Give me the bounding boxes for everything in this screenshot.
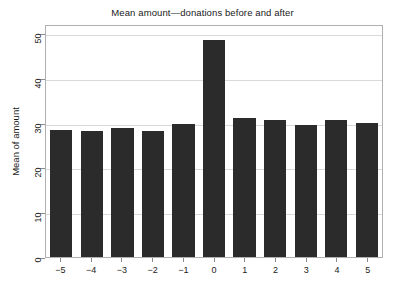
x-axis-tick <box>322 258 353 263</box>
y-axis-tick-label: 40 <box>34 79 43 89</box>
y-axis-tick-label: 10 <box>34 213 43 223</box>
x-axis-tick-label: 1 <box>229 265 260 275</box>
bar[interactable] <box>325 120 347 257</box>
bar[interactable] <box>50 130 72 257</box>
bar-slot <box>290 26 321 257</box>
x-axis-tick-mark <box>214 258 215 262</box>
y-axis: 01020304050 <box>0 25 45 258</box>
x-axis-tick-mark <box>60 258 61 262</box>
bar-slot <box>77 26 108 257</box>
bar[interactable] <box>264 120 286 257</box>
x-axis-tick <box>260 258 291 263</box>
y-axis-tick-label: 0 <box>34 258 43 263</box>
bar[interactable] <box>142 131 164 257</box>
x-axis-ticks <box>45 258 383 263</box>
x-axis-tick <box>137 258 168 263</box>
x-axis-tick <box>106 258 137 263</box>
x-axis: −5−4−3−2−1012345 <box>45 258 383 288</box>
x-axis-tick <box>76 258 107 263</box>
x-axis-tick <box>291 258 322 263</box>
x-axis-tick <box>199 258 230 263</box>
bar-slot <box>351 26 382 257</box>
bar[interactable] <box>172 124 194 257</box>
x-axis-tick-mark <box>244 258 245 262</box>
bar-series <box>46 26 382 257</box>
x-axis-tick-mark <box>152 258 153 262</box>
bar-slot <box>321 26 352 257</box>
bar-slot <box>168 26 199 257</box>
bar[interactable] <box>203 40 225 257</box>
x-axis-tick-mark <box>336 258 337 262</box>
x-axis-tick-label: 4 <box>322 265 353 275</box>
x-axis-tick-label: 2 <box>260 265 291 275</box>
bar[interactable] <box>233 118 255 257</box>
x-axis-tick-label: −1 <box>168 265 199 275</box>
chart-container: Mean amount—donations before and after M… <box>0 0 405 295</box>
chart-title: Mean amount—donations before and after <box>0 7 405 18</box>
x-axis-labels: −5−4−3−2−1012345 <box>45 265 383 275</box>
x-axis-tick-mark <box>183 258 184 262</box>
y-axis-tick-label: 20 <box>34 168 43 178</box>
plot-area <box>45 25 383 258</box>
y-axis-tick-label: 50 <box>34 34 43 44</box>
bar-slot <box>46 26 77 257</box>
bar-slot <box>107 26 138 257</box>
x-axis-tick <box>352 258 383 263</box>
x-axis-tick-label: −4 <box>76 265 107 275</box>
x-axis-tick-mark <box>91 258 92 262</box>
bar-slot <box>229 26 260 257</box>
bar-slot <box>199 26 230 257</box>
x-axis-tick-label: 5 <box>352 265 383 275</box>
x-axis-tick-mark <box>306 258 307 262</box>
bar-slot <box>138 26 169 257</box>
x-axis-tick-mark <box>121 258 122 262</box>
x-axis-tick-label: 3 <box>291 265 322 275</box>
x-axis-tick-mark <box>367 258 368 262</box>
y-axis-tick-label: 30 <box>34 124 43 134</box>
x-axis-tick-label: 0 <box>199 265 230 275</box>
bar[interactable] <box>81 131 103 257</box>
bar[interactable] <box>356 123 378 257</box>
x-axis-tick-label: −2 <box>137 265 168 275</box>
x-axis-tick <box>168 258 199 263</box>
x-axis-tick <box>229 258 260 263</box>
bar-slot <box>260 26 291 257</box>
x-axis-tick-label: −3 <box>106 265 137 275</box>
x-axis-tick-label: −5 <box>45 265 76 275</box>
bar[interactable] <box>295 125 317 257</box>
x-axis-tick <box>45 258 76 263</box>
bar[interactable] <box>111 128 133 257</box>
x-axis-tick-mark <box>275 258 276 262</box>
